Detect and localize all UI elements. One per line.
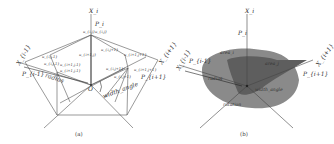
- origin-label: O: [88, 86, 93, 92]
- width-angle-label: width_angle: [255, 88, 283, 93]
- caption-a: (a): [75, 131, 83, 137]
- u-label: u_{i,j-1}: [44, 63, 60, 67]
- area-inner-label: area_j: [265, 62, 279, 67]
- area-outer-label: area_i: [220, 51, 234, 56]
- u-label: u_{i,j-1}: [42, 56, 58, 60]
- caption-b: (b): [240, 131, 248, 137]
- u-label: u_{i+1,j+1}: [124, 54, 147, 58]
- panel-a-pentagon-diagram: X_i P_i X_{i-1} P_{i-1} X_{i+1} P_{i+1} …: [0, 0, 167, 144]
- axis-label-xi: X_i: [89, 8, 98, 14]
- u-label: u_{i+1,j-1}: [60, 70, 81, 74]
- axis-label-xi: X_i: [245, 8, 254, 14]
- u-label: u_{i,j}: [95, 31, 107, 35]
- u-label: u_{i+1,j-1}: [60, 64, 81, 68]
- u-label: u_{i,j+1}: [101, 49, 118, 53]
- point-label-pi-1: P_{i-1}: [189, 58, 211, 64]
- radius-label: radius: [208, 77, 222, 82]
- u-label: u_{i,j+1}: [106, 68, 123, 72]
- point-label-pi: P_i: [238, 30, 247, 36]
- u-label: u_{i+1,j+1}: [134, 69, 157, 73]
- panel-b-area-diagram: X_i P_i X_{i-1} P_{i-1} X_{i+1} P_{i+1} …: [167, 0, 334, 144]
- rotation-label: rotation: [223, 103, 241, 108]
- point-label-pi+1: P_{i+1}: [303, 71, 328, 77]
- u-label: u_{i,j+1}: [114, 76, 131, 80]
- point-label-pi: P_i: [95, 21, 104, 27]
- point-label-pi-1: P_{i-1}: [22, 71, 44, 77]
- point-label-pi+1: P_{i+1}: [141, 74, 166, 80]
- u-label: u_{i+1,j}: [79, 54, 96, 58]
- u-label: u_{i,j}: [83, 31, 95, 35]
